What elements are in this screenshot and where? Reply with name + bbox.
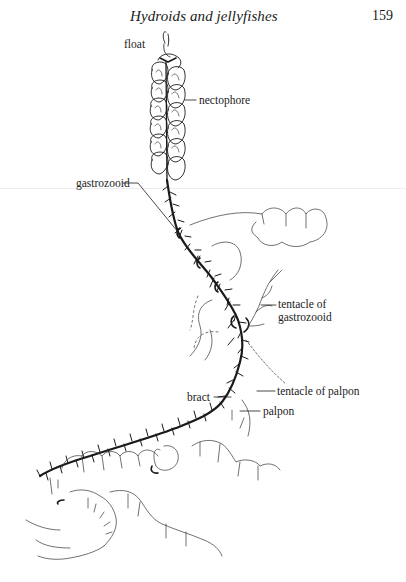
label-bract: bract xyxy=(187,391,210,404)
nectophore-column xyxy=(150,54,185,182)
stem xyxy=(40,180,242,476)
gastrozooids xyxy=(57,228,248,504)
float-drawing xyxy=(163,32,170,57)
label-gastrozooid: gastrozooid xyxy=(76,177,130,190)
label-palpon: palpon xyxy=(263,405,294,418)
tentacles xyxy=(26,208,327,559)
label-tentacle-of-palpon: tentacle of palpon xyxy=(277,385,359,398)
label-nectophore: nectophore xyxy=(199,94,250,107)
gastrozooid-leader xyxy=(123,183,178,232)
label-float: float xyxy=(124,38,145,51)
label-tentacle-of-gastrozooid-1: tentacle of xyxy=(278,298,326,311)
stem-zooids xyxy=(37,186,249,480)
siphonophore-illustration xyxy=(0,0,406,582)
leader-lines xyxy=(123,100,276,411)
label-tentacle-of-gastrozooid-2: gastrozooid xyxy=(278,311,332,324)
